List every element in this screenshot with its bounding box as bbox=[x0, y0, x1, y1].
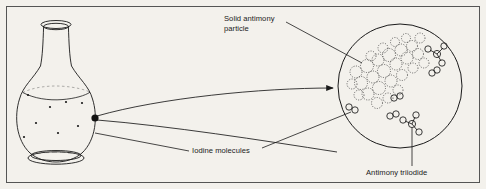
antimony-atom bbox=[378, 65, 391, 78]
antimony-atom bbox=[419, 58, 429, 68]
iodine-atom bbox=[425, 46, 431, 52]
iodine-atom bbox=[400, 117, 406, 123]
iodine-atom bbox=[441, 43, 447, 49]
antimony-atom bbox=[401, 52, 413, 64]
antimony-atom bbox=[355, 77, 368, 90]
antimony-atom bbox=[361, 60, 374, 73]
iodine-dot bbox=[23, 136, 25, 138]
iodine-atom bbox=[397, 93, 403, 99]
iodine-dot bbox=[49, 106, 51, 108]
leader-iodine-left bbox=[95, 133, 189, 151]
antimony-atom bbox=[407, 41, 418, 52]
flask-shoulder-left bbox=[20, 66, 41, 99]
antimony-triiodide-molecule bbox=[400, 112, 422, 135]
iodine-atom bbox=[393, 111, 399, 117]
iodine-atom bbox=[439, 60, 445, 66]
figure-container: Solid antimony particle Iodine molecules… bbox=[0, 0, 486, 189]
magnifier-cone bbox=[97, 88, 337, 152]
antimony-cluster bbox=[347, 33, 429, 109]
flask-neck-left bbox=[41, 27, 44, 67]
iodine-dot bbox=[81, 102, 83, 104]
antimony-atom bbox=[378, 43, 388, 53]
antimony-atom bbox=[383, 49, 396, 62]
flask-shoulder-right bbox=[72, 66, 93, 99]
antimony-atom bbox=[367, 71, 379, 83]
antimony-atom bbox=[383, 93, 393, 103]
antimony-triiodide-molecule bbox=[425, 43, 447, 66]
iodine-molecule bbox=[391, 93, 403, 101]
flask-neck-right bbox=[68, 27, 71, 67]
iodine-atom bbox=[352, 107, 358, 113]
antimony-atom bbox=[395, 44, 407, 56]
label-iodine-molecules: Iodine molecules bbox=[192, 146, 250, 156]
leader-iodine-right bbox=[262, 112, 351, 148]
iodine-dots bbox=[23, 94, 83, 138]
antimony-atom bbox=[413, 49, 424, 60]
flask-level-line-back bbox=[23, 86, 90, 92]
antimony-triiodide-molecules bbox=[400, 43, 447, 135]
iodine-atom bbox=[413, 112, 419, 118]
iodine-dot bbox=[65, 101, 67, 103]
magnifier-cone-top bbox=[97, 88, 333, 116]
antimony-atom bbox=[391, 38, 400, 47]
antimony-atom bbox=[385, 75, 397, 87]
flask bbox=[17, 21, 96, 165]
iodine-atom bbox=[416, 129, 422, 135]
label-antimony-triiodide: Antimony triiodide bbox=[366, 168, 427, 178]
antimony-atom bbox=[397, 70, 408, 81]
iodine-dot bbox=[57, 132, 59, 134]
iodine-molecule bbox=[429, 67, 440, 76]
antimony-atom bbox=[350, 66, 362, 78]
iodine-dot bbox=[77, 125, 79, 127]
leader-solid-antimony bbox=[286, 22, 362, 63]
iodine-molecules bbox=[346, 67, 440, 119]
antimony-atom bbox=[390, 58, 402, 70]
antimony-atom bbox=[373, 82, 386, 95]
iodine-atom bbox=[391, 95, 397, 101]
iodine-molecule bbox=[346, 104, 358, 113]
antimony-atom bbox=[402, 34, 411, 43]
antimony-atom bbox=[362, 88, 374, 100]
antimony-atom bbox=[347, 79, 357, 89]
antimony-atom bbox=[415, 33, 425, 43]
flask-level-line bbox=[23, 92, 90, 100]
iodine-atom bbox=[387, 113, 393, 119]
iodine-atom bbox=[346, 104, 352, 110]
iodine-dot bbox=[35, 122, 37, 124]
antimony-atom bbox=[372, 98, 383, 109]
iodine-atom bbox=[434, 67, 440, 73]
leader-lines bbox=[95, 22, 412, 166]
label-solid-antimony: Solid antimony particle bbox=[224, 14, 275, 33]
antimony-atom bbox=[372, 54, 384, 66]
antimony-atom bbox=[408, 63, 418, 73]
iodine-dot bbox=[27, 94, 29, 96]
iodine-molecule bbox=[387, 111, 399, 119]
